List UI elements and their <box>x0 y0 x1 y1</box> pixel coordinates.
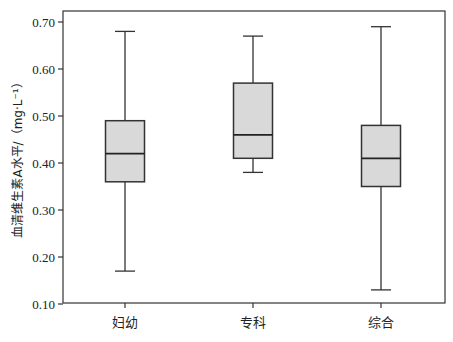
iqr-box <box>106 121 145 182</box>
boxes <box>106 27 401 290</box>
y-tick-label: 0.40 <box>32 156 55 171</box>
x-category-label: 专科 <box>240 315 266 330</box>
boxplot-chart: 0.100.200.300.400.500.600.70 妇幼专科综合 血清维生… <box>0 0 453 342</box>
x-axis: 妇幼专科综合 <box>112 303 394 330</box>
box-0 <box>106 31 145 271</box>
y-tick-label: 0.50 <box>32 109 55 124</box>
y-tick-label: 0.70 <box>32 15 55 30</box>
y-tick-label: 0.60 <box>32 62 55 77</box>
iqr-box <box>362 125 401 186</box>
x-category-label: 妇幼 <box>112 315 138 330</box>
x-category-label: 综合 <box>368 315 394 330</box>
box-2 <box>362 27 401 290</box>
box-1 <box>234 36 273 172</box>
iqr-box <box>234 83 273 158</box>
y-tick-label: 0.30 <box>32 203 55 218</box>
y-axis-label: 血清维生素A水平/（mg·L⁻¹） <box>11 76 25 237</box>
y-tick-label: 0.10 <box>32 297 55 312</box>
y-axis: 0.100.200.300.400.500.600.70 <box>32 15 63 312</box>
y-tick-label: 0.20 <box>32 250 55 265</box>
